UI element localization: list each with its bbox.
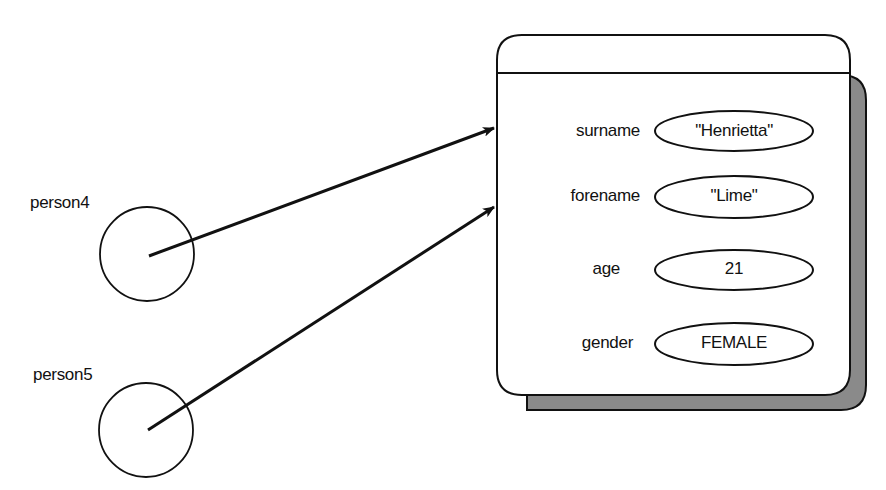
field-label-surname: surname [530, 121, 640, 141]
variable-circle-person5 [99, 383, 193, 477]
variable-circle-person4 [100, 207, 194, 301]
variable-label-person5: person5 [33, 365, 92, 385]
field-label-gender: gender [523, 333, 633, 353]
field-value-gender: FEMALE [655, 333, 813, 353]
reference-arrow-person5 [148, 207, 494, 430]
field-label-age: age [510, 259, 620, 279]
variable-label-person4: person4 [30, 193, 89, 213]
diagram-canvas [0, 0, 886, 490]
field-value-surname: "Henrietta" [655, 121, 813, 141]
field-label-forename: forename [530, 186, 640, 206]
field-value-age: 21 [655, 259, 813, 279]
reference-arrow-person4 [149, 128, 494, 256]
field-value-forename: "Lime" [655, 186, 813, 206]
